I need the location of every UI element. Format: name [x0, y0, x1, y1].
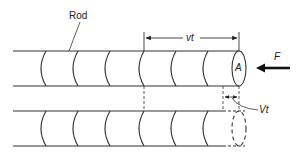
force-label: F: [274, 52, 280, 62]
area-label: A: [235, 63, 242, 73]
rod-leader-line: [69, 22, 80, 51]
top-rod: [13, 51, 246, 86]
dashed-guides: [144, 86, 239, 111]
displaced-end-ellipse: [232, 111, 246, 146]
vt-label: vt: [186, 33, 194, 43]
rod-diagram: [0, 0, 302, 156]
force-arrow: [256, 64, 290, 73]
Vt-label: Vt: [259, 105, 268, 115]
rod-label: Rod: [69, 11, 87, 21]
Vt-dimension: [225, 97, 258, 110]
bottom-rod: [13, 111, 246, 146]
